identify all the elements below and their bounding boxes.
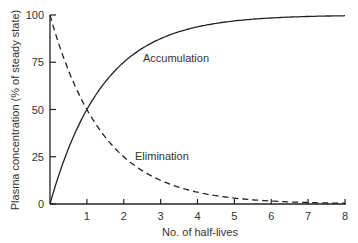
x-tick-label: 8 — [342, 210, 348, 222]
x-tick-label: 6 — [268, 210, 274, 222]
elimination-label: Elimination — [135, 150, 189, 162]
x-tick-label: 4 — [194, 210, 200, 222]
chart: 0255075100 12345678 Plasma concentration… — [0, 0, 358, 243]
x-tick-label: 5 — [231, 210, 237, 222]
x-tick-label: 1 — [84, 210, 90, 222]
y-tick-label: 100 — [26, 9, 44, 21]
elimination-curve — [50, 15, 345, 203]
axes — [50, 15, 346, 204]
y-axis-label: Plasma concentration (% of steady state) — [9, 10, 21, 211]
accumulation-label: Accumulation — [143, 52, 209, 64]
x-axis-label: No. of half-lives — [162, 226, 238, 238]
x-tick-label: 2 — [121, 210, 127, 222]
y-tick-label: 75 — [32, 56, 44, 68]
y-tick-label: 0 — [38, 198, 44, 210]
x-tick-label: 7 — [305, 210, 311, 222]
y-tick-label: 50 — [32, 104, 44, 116]
y-tick-label: 25 — [32, 151, 44, 163]
x-tick-label: 3 — [158, 210, 164, 222]
accumulation-curve — [50, 16, 345, 204]
